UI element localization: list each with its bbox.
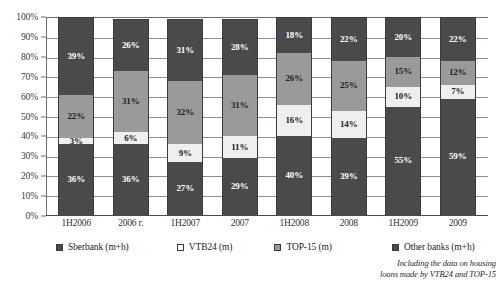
bar-segment[interactable]: 7% (440, 85, 476, 99)
bar-segment[interactable]: 32% (167, 81, 203, 145)
bar-segment[interactable]: 36% (113, 144, 149, 216)
bar-column[interactable]: 22%12%7%59% (440, 17, 476, 216)
bar-segment-label: 9% (179, 149, 192, 158)
y-axis-tick-label: 60% (21, 92, 38, 102)
x-axis-tick-label: 1H2007 (167, 218, 203, 234)
x-axis-tick-label: 2006 г. (113, 218, 149, 234)
bar-column[interactable]: 28%31%11%29% (222, 17, 258, 216)
bar-segment[interactable]: 25% (331, 61, 367, 111)
bar-segment-label: 14% (340, 120, 357, 129)
bar-segment[interactable]: 18% (276, 17, 312, 53)
legend-swatch-icon (274, 244, 281, 251)
bar-segment-label: 55% (395, 156, 412, 165)
x-axis-tick-label: 1H2009 (385, 218, 421, 234)
y-axis-tick-label: 100% (16, 12, 38, 22)
legend-item[interactable]: TOP-15 (m) (274, 242, 332, 252)
y-axis-tick-label: 50% (21, 112, 38, 122)
x-axis-labels: 1H20062006 г.1H200720071H200820081H20092… (46, 218, 488, 234)
y-axis: 0%10%20%30%40%50%60%70%80%90%100% (0, 17, 46, 216)
bar-segment[interactable]: 39% (331, 138, 367, 216)
legend-swatch-icon (392, 244, 399, 251)
bar-segment[interactable]: 12% (440, 61, 476, 85)
bar-segment-label: 16% (286, 116, 303, 125)
bar-column[interactable]: 18%26%16%40% (276, 17, 312, 216)
legend-item[interactable]: Sberbank (m+h) (56, 242, 129, 252)
y-axis-tick-label: 70% (21, 72, 38, 82)
y-axis-tick-label: 0% (26, 211, 38, 221)
bar-segment[interactable]: 27% (167, 162, 203, 216)
bar-segment[interactable]: 15% (385, 57, 421, 87)
chart-footnote: Including the data on housing loans made… (266, 258, 496, 279)
bar-segment-label: 22% (68, 112, 85, 121)
bar-segment[interactable]: 29% (222, 158, 258, 216)
bar-segment-label: 26% (286, 74, 303, 83)
bar-segment-label: 22% (449, 35, 466, 44)
bar-segment-label: 59% (449, 152, 466, 161)
y-axis-tick-label: 30% (21, 151, 38, 161)
x-axis-tick-label: 2007 (222, 218, 258, 234)
bar-segment[interactable]: 55% (385, 107, 421, 216)
footnote-line-2: loans made by VTB24 and TOP-15 (266, 269, 496, 280)
bar-segment[interactable]: 31% (222, 75, 258, 137)
bar-segment[interactable]: 6% (113, 132, 149, 144)
legend-item-label: Sberbank (m+h) (68, 242, 129, 252)
bar-segment[interactable]: 11% (222, 136, 258, 158)
bar-segment[interactable]: 26% (113, 19, 149, 71)
bar-segment-label: 20% (395, 33, 412, 42)
bar-segment-label: 39% (68, 52, 85, 61)
bar-column[interactable]: 26%31%6%36% (113, 17, 149, 216)
chart-legend: Sberbank (m+h)VTB24 (m)TOP-15 (m)Other b… (46, 240, 496, 254)
bar-segment-label: 25% (340, 81, 357, 90)
bar-segment[interactable]: 20% (385, 17, 421, 57)
bar-segment-label: 11% (231, 143, 248, 152)
bar-column[interactable]: 31%32%9%27% (167, 17, 203, 216)
bar-segment-label: 22% (340, 35, 357, 44)
y-axis-tick-label: 20% (21, 171, 38, 181)
bar-segment[interactable]: 28% (222, 19, 258, 75)
x-axis-tick-label: 1H2006 (58, 218, 94, 234)
bar-segment-label: 36% (68, 175, 85, 184)
bar-segment-label: 29% (231, 182, 248, 191)
footnote-line-1: Including the data on housing (266, 258, 496, 269)
bar-segment[interactable]: 16% (276, 105, 312, 137)
bar-column[interactable]: 20%15%10%55% (385, 17, 421, 216)
bar-segment[interactable]: 9% (167, 144, 203, 162)
legend-item[interactable]: VTB24 (m) (177, 242, 233, 252)
bar-segment-label: 31% (122, 97, 139, 106)
legend-item-label: Other banks (m+h) (404, 242, 475, 252)
x-axis-line (46, 215, 488, 216)
x-axis-tick-label: 2008 (331, 218, 367, 234)
bar-segment-label: 7% (451, 87, 464, 96)
bar-segment-label: 18% (286, 31, 303, 40)
legend-item[interactable]: Other banks (m+h) (392, 242, 475, 252)
bar-segment-label: 6% (124, 134, 137, 143)
bar-segment-label: 26% (122, 41, 139, 50)
bar-segment[interactable]: 40% (276, 136, 312, 216)
bar-segment[interactable]: 59% (440, 99, 476, 216)
bar-segment[interactable]: 39% (58, 17, 94, 95)
bar-segment-label: 10% (395, 92, 412, 101)
bar-column[interactable]: 22%25%14%39% (331, 17, 367, 216)
legend-item-label: VTB24 (m) (189, 242, 233, 252)
bar-segment[interactable]: 31% (167, 19, 203, 81)
bar-segment-label: 31% (231, 101, 248, 110)
bar-segment[interactable]: 14% (331, 111, 367, 139)
bar-segment[interactable]: 22% (58, 95, 94, 139)
bar-segment-label: 15% (395, 67, 412, 76)
legend-swatch-icon (177, 244, 184, 251)
bar-segment[interactable]: 26% (276, 53, 312, 105)
y-axis-tick-label: 90% (21, 32, 38, 42)
x-axis-tick-label: 2009 (440, 218, 476, 234)
y-axis-tick-label: 80% (21, 52, 38, 62)
bar-segment[interactable]: 10% (385, 87, 421, 107)
bar-segment[interactable]: 22% (440, 17, 476, 61)
bar-column[interactable]: 39%22%3%36% (58, 17, 94, 216)
bar-segment[interactable]: 22% (331, 17, 367, 61)
y-axis-tick-label: 10% (21, 191, 38, 201)
x-axis-tick-label: 1H2008 (276, 218, 312, 234)
bar-segment[interactable]: 31% (113, 71, 149, 133)
bar-segment-label: 31% (177, 46, 194, 55)
legend-swatch-icon (56, 244, 63, 251)
bar-segment-label: 40% (286, 171, 303, 180)
bar-segment[interactable]: 36% (58, 144, 94, 216)
